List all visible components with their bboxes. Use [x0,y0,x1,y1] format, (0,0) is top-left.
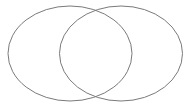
left-set-ellipse [8,6,132,101]
right-set-ellipse [60,6,183,101]
venn-diagram [0,0,190,107]
